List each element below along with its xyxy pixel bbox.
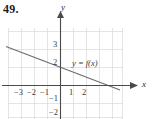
x-tick-label: −3 xyxy=(14,88,23,97)
function-line xyxy=(6,47,120,91)
grid-vertical xyxy=(9,28,123,119)
x-tick-label: 1 xyxy=(69,88,73,97)
y-axis xyxy=(57,11,64,119)
y-axis-label: y xyxy=(61,3,65,12)
y-tick-label: 2 xyxy=(53,58,57,67)
y-tick-label: 3 xyxy=(53,40,57,49)
grid-horizontal xyxy=(9,32,123,118)
function-annotation: y = f(x) xyxy=(72,59,98,68)
y-tick-label: −1 xyxy=(49,94,58,103)
x-tick-label: 2 xyxy=(82,88,86,97)
figure-exercise-49: 49. xyxy=(0,0,153,119)
x-axis-label: x xyxy=(142,80,146,89)
x-tick-label: −2 xyxy=(27,88,36,97)
y-tick-label: −2 xyxy=(49,108,58,117)
x-tick-label: −1 xyxy=(40,88,49,97)
